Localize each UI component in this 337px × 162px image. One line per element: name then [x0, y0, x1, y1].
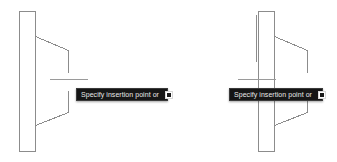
column-outline: [20, 12, 36, 152]
wireframe-drawing-left[interactable]: [0, 0, 169, 162]
flange-bottom-edge: [36, 91, 69, 126]
dropdown-indicator-icon[interactable]: [318, 91, 326, 99]
flange-top-edge: [275, 37, 308, 73]
tooltip-prompt-text: Specify insertion point or: [81, 90, 159, 99]
dynamic-input-tooltip-right[interactable]: Specify insertion point or: [229, 88, 323, 101]
tooltip-prompt-text: Specify insertion point or: [234, 90, 312, 99]
dropdown-indicator-icon[interactable]: [165, 91, 173, 99]
drawing-canvas[interactable]: Specify insertion point or Specify inser…: [0, 0, 337, 162]
dynamic-input-tooltip-left[interactable]: Specify insertion point or: [76, 88, 168, 101]
column-outline: [259, 12, 275, 152]
flange-top-edge: [36, 37, 69, 73]
wireframe-drawing-right[interactable]: [168, 0, 337, 162]
